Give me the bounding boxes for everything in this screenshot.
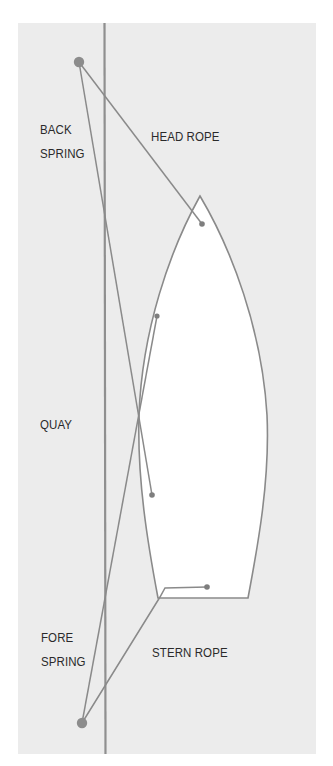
cleat-fore-spring-icon [154,313,159,318]
back-spring-label-line1: BACK [40,118,85,142]
bollard-bottom-icon [77,718,87,728]
cleat-back-spring-icon [149,492,155,498]
cleat-stern-icon [204,584,210,590]
quay-edge-line [105,23,106,754]
back-spring-label: BACK SPRING [40,118,85,166]
fore-spring-label: FORE SPRING [41,626,86,674]
back-spring-line [79,62,152,495]
stern-rope-label: STERN ROPE [152,641,228,665]
quay-label: QUAY [40,413,72,437]
back-spring-label-line2: SPRING [40,142,85,166]
fore-spring-label-line1: FORE [41,626,86,650]
bollard-top-icon [74,57,84,67]
boat-hull [139,196,268,598]
head-rope-label: HEAD ROPE [151,125,220,149]
fore-spring-label-line2: SPRING [41,650,86,674]
cleat-bow-icon [199,221,205,227]
